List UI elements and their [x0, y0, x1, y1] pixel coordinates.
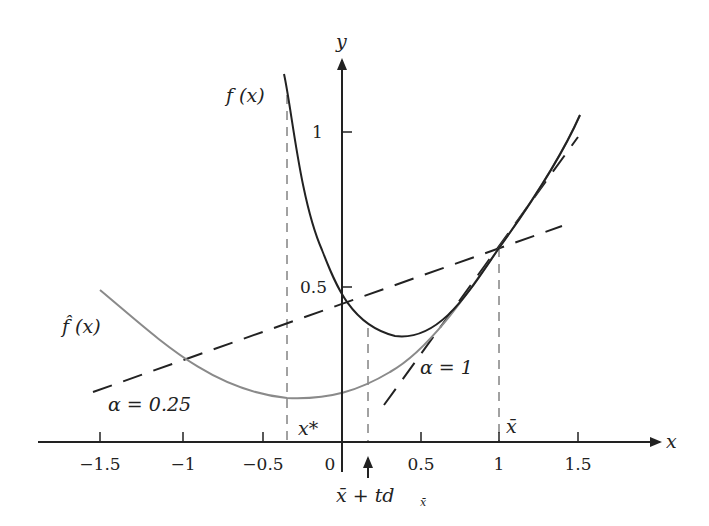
- x-tick-label: 1: [494, 454, 505, 474]
- x-tick-label: −1.5: [79, 454, 120, 474]
- x-tick-label: 1.5: [564, 454, 591, 474]
- alpha-quarter-line: [93, 226, 562, 392]
- proximal-approximation-diagram: −1.5 −1 −0.5 0 0.5 1 1.5 0.5 1 x y f (x)…: [0, 0, 709, 526]
- x-axis-label: x: [666, 430, 677, 452]
- x-tick-label: 0.5: [407, 454, 434, 474]
- alpha-one-label: α = 1: [420, 356, 473, 378]
- x-tick-labels: −1.5 −1 −0.5 0 0.5 1 1.5: [79, 454, 591, 474]
- alpha-one-line: [384, 137, 578, 405]
- alpha-quarter-label: α = 0.25: [108, 393, 191, 415]
- y-tick-label: 1: [312, 122, 323, 142]
- guide-lines: [287, 95, 499, 442]
- f-hat-curve: [100, 115, 580, 398]
- y-axis-label: y: [335, 30, 347, 52]
- y-ticks: [342, 132, 352, 287]
- x-bar-label: x̄: [506, 415, 517, 437]
- dashed-lines: [93, 137, 578, 405]
- x-tick-label: −0.5: [242, 454, 283, 474]
- x-star-label: x*: [298, 417, 319, 439]
- f-curve: [284, 74, 580, 336]
- x-tick-label: −1: [170, 454, 195, 474]
- y-tick-label: 0.5: [300, 277, 327, 297]
- f-label: f (x): [224, 84, 265, 106]
- x-tick-label: 0: [325, 454, 336, 474]
- step-point-subscript: x̄: [420, 496, 427, 509]
- f-hat-label: f̂ (x): [60, 315, 101, 337]
- step-point-label: x̄ + td: [336, 484, 395, 506]
